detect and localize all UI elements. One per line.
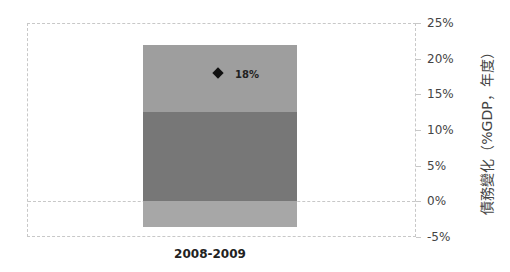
plot-area (27, 23, 416, 237)
y-tick-mark (416, 59, 421, 60)
y-tick-mark (416, 237, 421, 238)
y-tick-mark (416, 130, 421, 131)
y-tick-label: 5% (427, 159, 446, 173)
y-tick-mark (416, 166, 421, 167)
y-tick-label: 20% (427, 52, 454, 66)
y-tick-mark (416, 23, 421, 24)
y-tick-mark (416, 94, 421, 95)
bar-segment-upper (143, 45, 297, 112)
bar-segment-lower (143, 112, 297, 201)
y-tick-label: 25% (427, 16, 454, 30)
y-axis-label: 債務變化（%GDP，年度） (476, 45, 496, 214)
bar-segment-negative (143, 201, 297, 227)
y-tick-label: 10% (427, 123, 454, 137)
y-tick-mark (416, 201, 421, 202)
y-tick-label: 0% (427, 194, 446, 208)
marker-label: 18% (235, 68, 259, 79)
x-category-label: 2008-2009 (174, 247, 246, 261)
y-tick-label: 15% (427, 87, 454, 101)
y-tick-label: -5% (427, 230, 450, 244)
